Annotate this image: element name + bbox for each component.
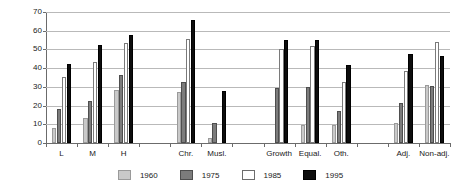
legend-label-1995: 1995 [325,171,343,180]
bar-Equal-1960 [301,125,305,143]
bar-Adj-1975 [399,103,403,143]
bar-H-1995 [129,35,133,143]
bar-L-1975 [57,109,61,143]
bar-Equal-1995 [315,40,319,143]
gridline [46,124,450,125]
x-tick-mark [357,143,358,147]
y-tick-label: 50 [20,45,42,53]
y-tick-label: 40 [20,64,42,72]
bar-H-1975 [119,75,123,143]
gridline [46,87,450,88]
bar-Adj-1995 [408,54,412,143]
x-tick-mark [450,143,451,147]
bar-M-1985 [93,62,97,143]
x-tick-label: Musl. [207,149,226,158]
y-tick-label: 20 [20,102,42,110]
legend-entry-1960[interactable]: 1960 [118,170,158,180]
gridline [46,106,450,107]
x-tick-label: Adj. [396,149,410,158]
legend-swatch-1960 [118,170,131,180]
bar-Growth-1985 [279,49,283,144]
y-tick-label: 70 [20,8,42,16]
y-tick-label: 60 [20,27,42,35]
bar-H-1960 [114,90,118,143]
bar-M-1995 [98,45,102,143]
bar-Oth-1960 [332,125,336,143]
bar-Nonadj-1985 [435,42,439,143]
legend-swatch-1985 [242,170,255,180]
bar-Chr-1985 [186,39,190,143]
bar-Nonadj-1975 [430,86,434,143]
bar-Chr-1995 [191,20,195,143]
gridline [46,31,450,32]
x-tick-label: Non-adj. [419,149,449,158]
y-tick-label: 10 [20,120,42,128]
bar-Musl-1960 [208,138,212,143]
bar-Chr-1975 [181,82,185,143]
bar-Oth-1975 [337,111,341,143]
bar-Oth-1995 [346,65,350,143]
legend-entry-1995[interactable]: 1995 [303,170,343,180]
x-tick-mark [295,143,296,147]
bar-Nonadj-1995 [440,56,444,143]
bar-L-1985 [62,77,66,143]
bar-Adj-1985 [404,71,408,143]
bar-Equal-1975 [306,87,310,143]
x-tick-mark [201,143,202,147]
gridline [46,12,450,13]
legend-swatch-1995 [303,170,316,180]
x-tick-mark [232,143,233,147]
x-tick-label: Growth [266,149,292,158]
legend-entry-1985[interactable]: 1985 [242,170,282,180]
bar-Chr-1960 [177,92,181,143]
plot-area [46,12,450,143]
bar-Musl-1995 [222,91,226,143]
x-tick-mark [139,143,140,147]
x-axis-line [46,143,450,144]
bar-L-1995 [67,64,71,143]
y-tick-label: 0 [20,139,42,147]
legend-label-1985: 1985 [264,171,282,180]
bar-Musl-1975 [212,123,216,143]
chart-legend: 1960197519851995 [0,167,461,183]
x-tick-label: L [59,149,63,158]
legend-swatch-1975 [180,170,193,180]
x-tick-mark [46,143,47,147]
bar-L-1960 [52,128,56,143]
bar-Oth-1985 [342,82,346,143]
bar-Growth-1995 [284,40,288,143]
x-tick-mark [170,143,171,147]
legend-entry-1975[interactable]: 1975 [180,170,220,180]
bar-H-1985 [124,43,128,143]
x-tick-mark [264,143,265,147]
bar-Adj-1960 [394,123,398,143]
x-tick-mark [77,143,78,147]
x-tick-mark [326,143,327,147]
bar-Equal-1985 [310,46,314,143]
bar-M-1975 [88,101,92,143]
legend-label-1960: 1960 [140,171,158,180]
x-tick-label: H [121,149,127,158]
bar-Nonadj-1960 [425,85,429,143]
legend-label-1975: 1975 [202,171,220,180]
gridline [46,68,450,69]
gridline [46,49,450,50]
bar-chart: 010203040506070 LMHChr.Musl.GrowthEqual.… [0,0,461,193]
bar-Growth-1975 [275,88,279,143]
x-tick-mark [108,143,109,147]
bar-M-1960 [83,118,87,143]
y-tick-label: 30 [20,83,42,91]
x-tick-label: Chr. [179,149,194,158]
x-tick-label: M [89,149,96,158]
x-tick-mark [419,143,420,147]
x-tick-label: Equal. [299,149,322,158]
x-tick-mark [388,143,389,147]
x-tick-label: Oth. [334,149,349,158]
